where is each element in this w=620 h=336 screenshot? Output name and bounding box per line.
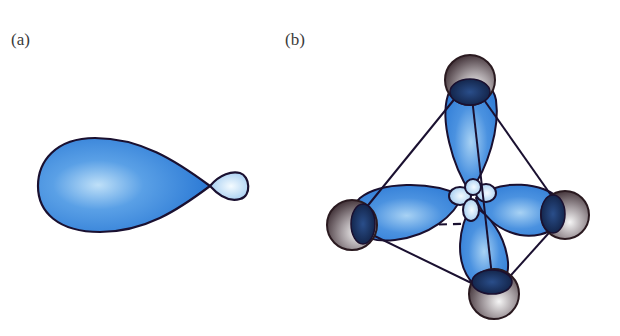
small-lobe [210, 172, 248, 199]
atom-bottom [469, 269, 519, 319]
panel-a-orbital [38, 138, 248, 232]
atom-top [445, 55, 495, 105]
panel-b-tetrahedron [327, 55, 589, 319]
atom-left [327, 200, 377, 250]
large-lobe [38, 138, 210, 232]
orbital-diagram: (a) (b) [0, 0, 620, 336]
diagram-graphics [0, 0, 620, 336]
atom-right [541, 191, 589, 239]
